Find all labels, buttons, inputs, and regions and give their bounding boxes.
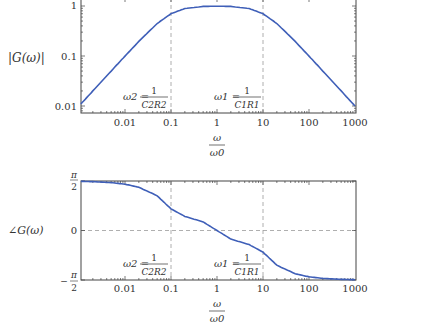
- magnitude-ytick-0.1: 0.1: [61, 51, 77, 62]
- magnitude-xlabel-denominator: ω0: [210, 147, 225, 158]
- magnitude-xtick-0.01: 0.01: [114, 117, 136, 128]
- magnitude-ylabel: |G(ω)|: [8, 51, 45, 65]
- phase-annotation-w1-numerator: 1: [244, 253, 250, 263]
- magnitude-xtick-1: 1: [214, 117, 220, 128]
- phase-xtick-1000: 1000: [342, 283, 367, 294]
- phase-xtick-10: 10: [257, 283, 270, 294]
- phase-xtick-1: 1: [214, 283, 220, 294]
- magnitude-ytick-0.01: 0.01: [55, 101, 77, 112]
- magnitude-chart: |G(ω)| 1 0.1 0.01 0.01 0.1 1 10 100 1000…: [8, 0, 368, 158]
- magnitude-xtick-1000: 1000: [342, 117, 367, 128]
- magnitude-annotation-w1-numerator: 1: [244, 86, 250, 96]
- phase-ytick-top-denominator: 2: [71, 182, 77, 192]
- phase-ytick-bottom-denominator: 2: [71, 283, 77, 293]
- phase-ytick-bottom-sign: −: [60, 276, 68, 286]
- phase-xtick-100: 100: [299, 283, 318, 294]
- phase-xtick-0.1: 0.1: [163, 283, 179, 294]
- magnitude-annotation-w1-denominator: C1R1: [234, 100, 259, 110]
- phase-annotation-w1-denominator: C1R1: [234, 267, 259, 277]
- magnitude-ytick-1: 1: [71, 0, 77, 11]
- phase-ytick-zero: 0: [71, 225, 77, 236]
- phase-annotation-w2-numerator: 1: [151, 253, 157, 263]
- magnitude-annotation-w2-denominator: C2R2: [141, 100, 166, 110]
- magnitude-xtick-100: 100: [299, 117, 318, 128]
- phase-chart: ∠G(ω) π 2 0 − π 2 0.01 0.1 1 10 100 1000…: [8, 170, 368, 324]
- phase-ylabel: ∠G(ω): [8, 224, 44, 237]
- magnitude-xtick-10: 10: [257, 117, 270, 128]
- magnitude-xtick-0.1: 0.1: [163, 117, 179, 128]
- magnitude-annotation-w2-numerator: 1: [151, 86, 157, 96]
- phase-ytick-bottom-numerator: π: [70, 270, 78, 280]
- phase-xtick-0.01: 0.01: [114, 283, 136, 294]
- magnitude-xlabel-numerator: ω: [213, 132, 221, 143]
- phase-ytick-top-numerator: π: [70, 170, 78, 180]
- phase-xlabel-numerator: ω: [213, 298, 221, 309]
- phase-annotation-w2-denominator: C2R2: [141, 267, 166, 277]
- bode-plot: |G(ω)| 1 0.1 0.01 0.01 0.1 1 10 100 1000…: [0, 0, 422, 326]
- phase-xlabel-denominator: ω0: [210, 313, 225, 324]
